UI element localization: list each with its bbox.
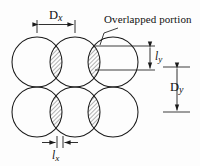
label-dx: Dx xyxy=(49,9,62,23)
label-dy: Dy xyxy=(170,81,183,95)
label-dx-subscript: x xyxy=(58,12,62,23)
label-lx: lx xyxy=(52,150,59,163)
label-dy-subscript: y xyxy=(179,84,183,95)
label-dy-base: D xyxy=(170,80,179,94)
label-lx-subscript: x xyxy=(55,153,59,163)
label-ly-subscript: y xyxy=(158,54,162,64)
label-ly: ly xyxy=(155,51,162,64)
figure-container: Dx Overlapped portion ly Dy lx xyxy=(0,0,200,166)
label-overlapped-portion: Overlapped portion xyxy=(104,14,192,25)
label-dx-base: D xyxy=(49,8,58,22)
